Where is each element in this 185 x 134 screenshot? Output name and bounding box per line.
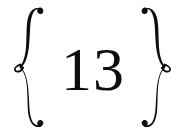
right-brace-icon: [131, 0, 177, 134]
left-curly-brace-ornament: [8, 0, 54, 134]
number-glyphs: 13: [59, 37, 127, 97]
number-display: 13: [52, 0, 133, 134]
number-text: 13: [61, 37, 125, 97]
number-plate: 13: [0, 0, 185, 134]
left-brace-icon: [8, 0, 54, 134]
right-curly-brace-ornament: [131, 0, 177, 134]
